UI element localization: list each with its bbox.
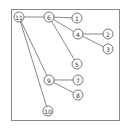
node-label: 9 [47, 77, 51, 84]
node-label: 10 [44, 108, 52, 115]
node-label: 8 [76, 92, 80, 99]
tree-diagram: 1161423597810 [0, 0, 128, 129]
node-label: 5 [75, 61, 79, 68]
diagram-frame [12, 10, 120, 121]
node-8: 8 [73, 90, 83, 100]
node-label: 6 [47, 14, 51, 21]
edge-11-10 [19, 17, 48, 111]
node-4: 4 [73, 29, 83, 39]
node-1: 1 [72, 13, 82, 23]
node-label: 7 [76, 77, 80, 84]
node-6: 6 [44, 12, 54, 22]
edge-6-5 [49, 17, 77, 64]
node-2: 2 [103, 29, 113, 39]
node-7: 7 [73, 75, 83, 85]
node-9: 9 [44, 75, 54, 85]
edge-11-9 [19, 17, 49, 80]
edges-group [19, 17, 108, 111]
node-11: 11 [14, 12, 24, 22]
node-label: 4 [76, 31, 80, 38]
node-10: 10 [43, 106, 53, 116]
node-label: 1 [75, 15, 79, 22]
node-label: 2 [106, 31, 110, 38]
nodes-group: 1161423597810 [14, 12, 113, 116]
node-5: 5 [72, 59, 82, 69]
node-label: 3 [106, 46, 110, 53]
node-3: 3 [103, 44, 113, 54]
node-label: 11 [15, 14, 23, 21]
